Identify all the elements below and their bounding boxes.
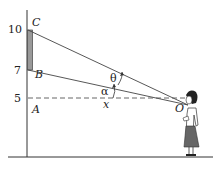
observer-figure	[183, 91, 199, 156]
label-x: x	[103, 98, 110, 111]
tick-7: 7	[14, 64, 21, 77]
screen	[28, 30, 33, 70]
label-alpha: α	[101, 85, 109, 98]
label-o: O	[175, 102, 184, 115]
tick-10: 10	[8, 23, 22, 36]
theta-arrow-icon	[120, 72, 124, 76]
label-theta: θ	[110, 72, 117, 85]
label-a: A	[31, 103, 40, 116]
tick-5: 5	[14, 92, 21, 105]
label-b: B	[34, 68, 43, 81]
diagram-canvas: 10 7 5 C B A O θ α x	[0, 0, 213, 176]
label-c: C	[32, 16, 41, 29]
